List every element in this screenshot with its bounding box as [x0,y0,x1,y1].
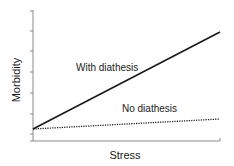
label-with-diathesis: With diathesis [76,62,138,73]
y-axis-label: Morbidity [10,57,22,102]
series-no-diathesis [33,119,220,129]
x-axis-label: Stress [109,149,141,161]
label-no-diathesis: No diathesis [122,103,177,114]
series-with-diathesis [33,32,220,129]
chart: With diathesis No diathesis Stress Morbi… [0,0,234,166]
